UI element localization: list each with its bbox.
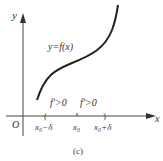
y-axis-label: y [11,9,17,21]
function-curve [37,5,118,100]
curve-label: y=f(x) [47,41,74,53]
right-bracket: ) [103,111,106,121]
tick-label-left: x₀−δ [34,122,53,132]
origin-label: O [12,119,19,130]
left-bracket: ( [44,111,47,121]
left-derivative-label: f'>0 [50,97,67,108]
right-derivative-label: f'>0 [80,97,97,108]
x-axis-label: x [154,113,160,124]
tick-label-center: x₀ [72,122,80,132]
tick-label-right: x₀+δ [93,122,112,132]
y-axis-arrow-icon [20,13,26,23]
figure-caption: (c) [73,146,83,156]
function-diagram: ( ) y x O y=f(x) f'>0 f'>0 x₀−δ x₀ x₀+δ … [0,0,163,161]
